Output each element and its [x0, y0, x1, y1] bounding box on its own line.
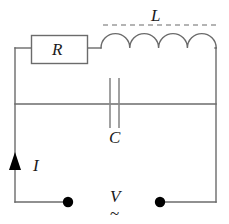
capacitor-label: C [109, 129, 120, 146]
inductor-label: L [151, 7, 160, 24]
voltage-label: V [110, 188, 120, 205]
ac-source-symbol: ~ [110, 205, 119, 222]
resistor-label: R [52, 41, 62, 58]
current-direction-arrow-icon [9, 152, 21, 170]
left-terminal-dot [63, 197, 73, 207]
inductor-coil [101, 34, 216, 48]
right-terminal-dot [155, 197, 165, 207]
circuit-diagram: R L C I V ~ [0, 0, 229, 224]
current-label: I [33, 157, 39, 174]
